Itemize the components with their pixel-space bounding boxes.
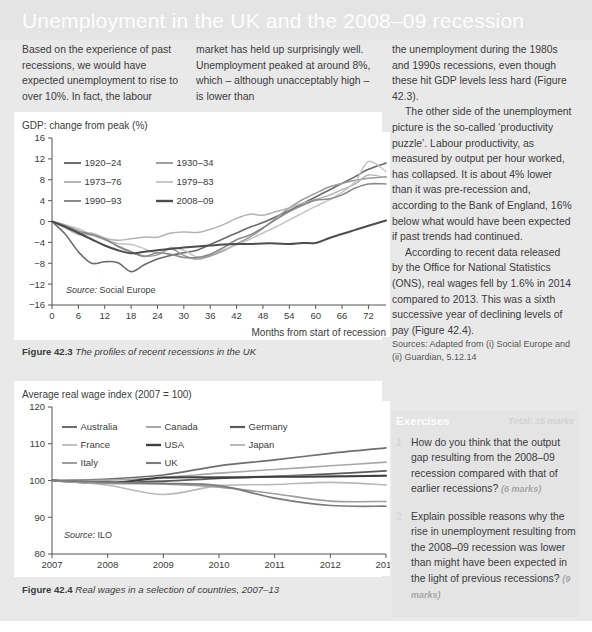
paragraph-col1: Based on the experience of past recessio… xyxy=(22,42,187,104)
page-header: Unemployment in the UK and the 2008–09 r… xyxy=(0,0,592,40)
sources-note: Sources: Adapted from (i) Social Europe … xyxy=(392,338,574,363)
y-tick-label: 120 xyxy=(29,401,45,412)
y-tick-label: −4 xyxy=(34,237,45,248)
x-tick-label: 12 xyxy=(99,310,110,321)
legend-label-4: 1990–93 xyxy=(85,195,122,206)
chart2-y-axis-title: Average real wage index (2007 = 100) xyxy=(22,388,390,401)
figure-42-3-caption-text: The profiles of recent recessions in the… xyxy=(75,346,256,357)
figure-42-3: GDP: change from peak (%) −16−12−8−40481… xyxy=(22,119,390,337)
y-tick-label: 16 xyxy=(34,132,45,143)
chart1-canvas: −16−12−8−4048121606121824303642485460667… xyxy=(22,132,390,337)
x-tick-label: 2010 xyxy=(208,559,229,570)
exercises-total-marks: Total: 15 marks xyxy=(508,416,574,426)
figure-42-3-caption: Figure 42.3 The profiles of recent reces… xyxy=(22,346,256,357)
y-tick-label: 8 xyxy=(40,174,45,185)
legend-label-2: 1973–76 xyxy=(85,176,122,187)
paragraph-col2: market has held up surprisingly well. Un… xyxy=(196,42,378,104)
y-tick-label: 100 xyxy=(29,475,45,486)
figure-42-4-caption-label: Figure 42.4 xyxy=(22,584,73,595)
legend-label-7: UK xyxy=(165,457,179,468)
paragraph-col3-1: the unemployment during the 1980s and 19… xyxy=(392,42,574,104)
legend-label-5: 2008–09 xyxy=(177,195,214,206)
exercise-number-2: 2 xyxy=(396,509,409,524)
x-tick-label: 2009 xyxy=(153,559,174,570)
exercise-item-1: 1 How do you think that the output gap r… xyxy=(396,435,578,498)
legend-label-6: Italy xyxy=(81,457,99,468)
x-tick-label: 2007 xyxy=(41,559,62,570)
legend-label-1: Canada xyxy=(165,421,199,432)
x-tick-label: 36 xyxy=(205,310,216,321)
x-tick-label: 2011 xyxy=(264,559,284,570)
x-tick-label: 60 xyxy=(310,310,321,321)
page-root: Unemployment in the UK and the 2008–09 r… xyxy=(0,0,592,621)
x-tick-label: 42 xyxy=(231,310,242,321)
y-tick-label: 80 xyxy=(34,548,45,559)
exercise-text-2: Explain possible reasons why the rise in… xyxy=(411,511,576,584)
exercise-body-1: How do you think that the output gap res… xyxy=(411,435,578,498)
figure-42-4: Average real wage index (2007 = 100) 809… xyxy=(22,388,390,576)
chart-source-note: Source: ILO xyxy=(64,530,112,540)
body-column-1: Based on the experience of past recessio… xyxy=(22,42,187,104)
exercise-number-1: 1 xyxy=(396,435,409,450)
x-axis-title: Months from start of recession xyxy=(252,327,387,337)
legend-label-5: Japan xyxy=(249,439,275,450)
y-tick-label: 110 xyxy=(30,438,45,449)
chart2-canvas: 8090100110120200720082009201020112012201… xyxy=(22,401,390,576)
body-column-2: market has held up surprisingly well. Un… xyxy=(196,42,378,104)
x-tick-label: 24 xyxy=(152,310,163,321)
x-tick-label: 0 xyxy=(49,310,54,321)
figure-42-4-caption-text: Real wages in a selection of countries, … xyxy=(75,584,279,595)
chart2-y-axis-title-text: Average real wage index (2007 = 100) xyxy=(22,389,192,400)
legend-label-3: 1979–83 xyxy=(177,176,214,187)
x-tick-label: 54 xyxy=(284,310,295,321)
y-tick-label: −12 xyxy=(29,279,45,290)
chart-source-note: Source: Social Europe xyxy=(66,285,156,295)
x-tick-label: 66 xyxy=(337,310,348,321)
exercise-marks-1: (6 marks) xyxy=(501,484,541,494)
legend-label-0: 1920–24 xyxy=(85,157,122,168)
x-tick-label: 30 xyxy=(179,310,190,321)
figure-42-4-caption: Figure 42.4 Real wages in a selection of… xyxy=(22,584,279,595)
y-tick-label: 0 xyxy=(40,216,45,227)
paragraph-col3-2: The other side of the unemployment pictu… xyxy=(392,104,574,244)
x-tick-label: 2013 xyxy=(375,559,390,570)
figure-42-3-caption-label: Figure 42.3 xyxy=(22,346,73,357)
x-tick-label: 2008 xyxy=(97,559,118,570)
x-tick-label: 48 xyxy=(258,310,269,321)
chart1-y-axis-title-text: GDP: change from peak (%) xyxy=(22,120,148,131)
exercise-item-2: 2 Explain possible reasons why the rise … xyxy=(396,509,578,603)
exercises-header: Exercises Total: 15 marks xyxy=(396,415,574,429)
legend-label-3: France xyxy=(81,439,111,450)
legend-label-0: Australia xyxy=(81,421,119,432)
legend-label-1: 1930–34 xyxy=(177,157,214,168)
x-tick-label: 72 xyxy=(363,310,374,321)
chart1-y-axis-title: GDP: change from peak (%) xyxy=(22,119,390,132)
x-tick-label: 18 xyxy=(126,310,137,321)
y-tick-label: 12 xyxy=(34,153,45,164)
paragraph-col3-3: According to recent data released by the… xyxy=(392,245,574,339)
exercises-panel: Exercises Total: 15 marks 1 How do you t… xyxy=(392,411,578,617)
exercise-body-2: Explain possible reasons why the rise in… xyxy=(411,509,578,603)
x-tick-label: 6 xyxy=(76,310,81,321)
y-tick-label: 90 xyxy=(34,512,45,523)
y-tick-label: −8 xyxy=(34,258,45,269)
page-title: Unemployment in the UK and the 2008–09 r… xyxy=(22,9,524,33)
x-tick-label: 2012 xyxy=(320,559,341,570)
y-tick-label: 4 xyxy=(40,195,45,206)
body-column-3: the unemployment during the 1980s and 19… xyxy=(392,42,574,363)
legend-label-4: USA xyxy=(165,439,185,450)
y-tick-label: −16 xyxy=(29,299,45,310)
exercises-title: Exercises xyxy=(396,415,450,427)
legend-label-2: Germany xyxy=(249,421,288,432)
